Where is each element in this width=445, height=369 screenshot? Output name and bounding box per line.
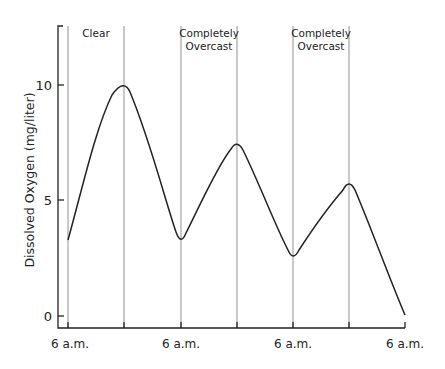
x-tick-label-1: 6 a.m. bbox=[162, 337, 200, 351]
dissolved-oxygen-chart: 10 5 0 Dissolved Oxygen (mg/liter) 6 a.m… bbox=[0, 0, 445, 369]
annotation-overcast-2-line2: Overcast bbox=[298, 40, 345, 52]
y-axis-title: Dissolved Oxygen (mg/liter) bbox=[22, 92, 37, 267]
annotation-clear: Clear bbox=[82, 27, 110, 39]
x-tick-label-0: 6 a.m. bbox=[51, 337, 89, 351]
y-tick-5: 5 bbox=[44, 193, 52, 208]
y-axis bbox=[58, 26, 405, 328]
y-tick-0: 0 bbox=[44, 309, 52, 324]
x-tick-label-3: 6 a.m. bbox=[386, 337, 424, 351]
vertical-gridlines bbox=[68, 26, 349, 328]
annotation-overcast-1-line1: Completely bbox=[179, 27, 239, 39]
annotation-overcast-2-line1: Completely bbox=[291, 27, 351, 39]
y-tick-10: 10 bbox=[35, 78, 52, 93]
x-tick-label-2: 6 a.m. bbox=[274, 337, 312, 351]
axes bbox=[58, 26, 405, 328]
oxygen-curve bbox=[68, 86, 405, 315]
annotation-overcast-1-line2: Overcast bbox=[186, 40, 233, 52]
